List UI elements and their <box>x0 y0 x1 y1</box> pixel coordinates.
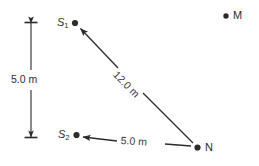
point-marker-n <box>194 144 200 150</box>
point-label-s1: S1 <box>57 17 69 30</box>
point-marker-s2 <box>73 132 79 138</box>
point-marker-s1 <box>72 20 78 26</box>
point-label-m: M <box>233 10 242 21</box>
point-label-n: N <box>205 142 213 153</box>
horizontal-distance-label: 5.0 m <box>120 135 147 147</box>
diagonal-segment-lower <box>143 93 193 143</box>
horizontal-segment-right <box>165 144 191 146</box>
diagonal-segment-upper <box>81 29 119 69</box>
point-label-s2: S2 <box>58 129 70 142</box>
physics-vector-diagram: S1 S2 N M 5.0 m 12.0 m 5.0 m <box>0 0 259 166</box>
vertical-scale-label: 5.0 m <box>10 74 38 85</box>
horizontal-segment-left <box>83 137 117 141</box>
point-marker-m <box>223 13 228 18</box>
